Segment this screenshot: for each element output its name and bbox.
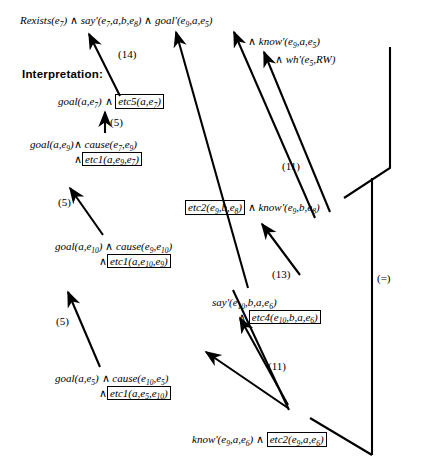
node-etc2-know-e9-b-e8: etc2(e9,b,e8) ∧ know'(e9,b,e8) [185, 200, 320, 215]
boxed-subscript-2: 6 [316, 439, 320, 448]
conjunction-symbol: ∧ [238, 311, 249, 323]
formula-text: goal(a,e [55, 372, 91, 384]
rexists-sub: 7 [60, 20, 64, 29]
formula-text: ) [133, 138, 137, 150]
formula-text: cause(e [112, 372, 146, 384]
boxed-mid: ,b,e [219, 201, 235, 213]
boxed-etc-predicate: etc2(e9,b,e8) [185, 200, 245, 215]
and-symbol-4: ∧ [275, 53, 283, 65]
formula-subscript: 8 [312, 207, 316, 216]
and-symbol: ∧ [70, 14, 78, 26]
formula-subscript: 7 [118, 144, 122, 153]
know-end: ) [316, 35, 320, 47]
boxed-subscript: 10 [145, 260, 153, 269]
formula-subscript: 6 [246, 439, 250, 448]
top-formula-line-1: Rexists(e7) ∧ say'(e7,a,b,e8) ∧ goal'(e9… [20, 14, 213, 28]
conjunction-symbol: ∧ [74, 138, 85, 150]
formula-subscript: 9 [293, 207, 297, 216]
edge-eq-bracket [344, 47, 390, 198]
proof-graph-figure: Interpretation: Rexists(e7) ∧ say'(e7,a,… [0, 0, 429, 467]
formula-text: know'(e [192, 433, 226, 445]
edge-label-11-b: (11) [268, 360, 286, 372]
rexists-tail: ) [63, 14, 67, 26]
formula-text: ,a,e [230, 433, 246, 445]
formula-line: goal(a,e5) ∧ cause(e10,e5) [55, 372, 171, 386]
formula-line: goal(a,e9)∧ cause(e7,e9) [30, 138, 142, 152]
node-goal-e5: goal(a,e5) ∧ cause(e10,e5)∧etc1(a,e5,e10… [55, 372, 171, 401]
wh-tail: ,RW) [313, 53, 335, 65]
boxed-tail: ) [164, 255, 168, 267]
formula-subscript: 9 [66, 144, 70, 153]
boxed-etc-predicate: etc5(a,e7) [115, 94, 164, 109]
edge-label-5-a: (5) [110, 116, 123, 128]
formula-text: say'(e [212, 296, 238, 308]
node-goal-e7: goal(a,e7) ∧ etc5(a,e7) [58, 94, 164, 109]
boxed-tail: ) [135, 153, 139, 165]
boxed-tail: ) [157, 95, 161, 107]
formula-subscript: 9 [130, 144, 134, 153]
formula-text: ,b,e [296, 201, 312, 213]
boxed-subscript: 5 [145, 392, 149, 401]
formula-subscript: 6 [269, 302, 273, 311]
formula-subscript: 5 [91, 378, 95, 387]
boxed-text: etc1(a,e [110, 255, 145, 267]
boxed-text: etc5(a,e [118, 95, 153, 107]
formula-text: goal(a,e [55, 240, 91, 252]
boxed-mid: ,a,e [300, 433, 316, 445]
formula-subscript: 5 [161, 378, 165, 387]
conjunction-symbol: ∧ [102, 95, 116, 107]
formula-subscript: 10 [238, 302, 246, 311]
goalprime-end: ) [209, 14, 213, 26]
formula-line: say'(e10,b,a,e6) [212, 296, 321, 310]
edge-label-14: (14) [118, 48, 136, 60]
formula-text: ) [165, 372, 169, 384]
and-symbol-2: ∧ [144, 14, 152, 26]
goalprime-text: goal'(e [155, 14, 185, 26]
boxed-subscript-2: 8 [235, 207, 239, 216]
boxed-tail: ) [314, 311, 318, 323]
and-symbol-3: ∧ [248, 35, 256, 47]
boxed-text: etc2(e [188, 201, 215, 213]
say-sub-a: 7 [106, 20, 110, 29]
formula-subscript: 10 [161, 246, 169, 255]
formula-text: ,e [153, 240, 161, 252]
formula-subscript: 7 [94, 101, 98, 110]
node-know-e9-a-e6: know'(e9,a,e6) ∧ etc2(e9,a,e6) [192, 432, 327, 447]
conjunction-symbol: ∧ [74, 153, 82, 165]
boxed-etc-predicate: etc1(a,e9,e7) [82, 152, 142, 167]
boxed-text: etc4(e [252, 311, 279, 323]
edge-11-to-know [264, 52, 330, 212]
boxed-tail: ) [164, 387, 168, 399]
rexists-text: Rexists(e [20, 14, 60, 26]
say-end: ) [138, 14, 142, 26]
goalprime-mid: ,a,e [189, 14, 205, 26]
edge-14 [89, 34, 120, 96]
know-sub-b: 5 [313, 41, 317, 50]
formula-subscript: 10 [91, 246, 99, 255]
formula-line: ∧ etc4(e10,b,a,e6) [212, 310, 321, 325]
boxed-subscript-2: 9 [160, 260, 164, 269]
say-mid: ,a,b,e [110, 14, 134, 26]
edge-5-c [68, 292, 100, 367]
goalprime-sub-a: 9 [185, 20, 189, 29]
formula-text: cause(e [116, 240, 150, 252]
wh-text: wh'(e [286, 53, 310, 65]
know-sub-a: 9 [293, 41, 297, 50]
formula-text: ,e [153, 372, 161, 384]
boxed-mid: ,e [149, 387, 157, 399]
boxed-subscript: 10 [279, 316, 287, 325]
boxed-tail: ) [238, 201, 242, 213]
top-formula-line-2: ∧ know'(e9,a,e5) [248, 35, 320, 49]
formula-text: goal(a,e [30, 138, 66, 150]
formula-text: ) [273, 296, 277, 308]
formula-subscript: 9 [226, 439, 230, 448]
boxed-mid: ,e [124, 153, 132, 165]
formula-line: ∧etc1(a,e5,e10) [55, 386, 171, 401]
edge-label-11-a: (11) [282, 160, 300, 172]
formula-text: know'(e [258, 201, 292, 213]
boxed-subscript-2: 6 [310, 316, 314, 325]
conjunction-symbol: ∧ [99, 372, 113, 384]
say-text: say'(e [81, 14, 107, 26]
edge-5-b [70, 188, 103, 235]
formula-line: etc2(e9,b,e8) ∧ know'(e9,b,e8) [185, 200, 320, 215]
